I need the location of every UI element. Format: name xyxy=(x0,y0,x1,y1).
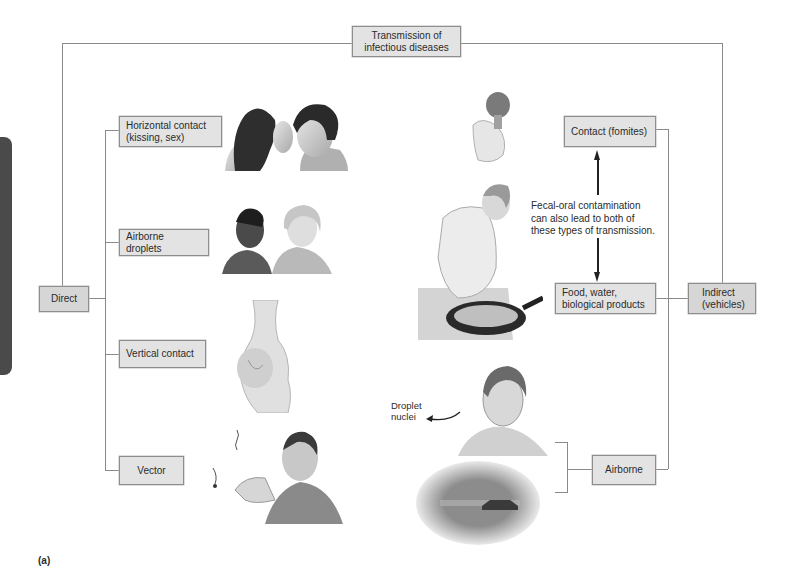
left-trunk xyxy=(105,130,106,471)
fecal-oral-line-1: Fecal-oral contamination xyxy=(531,200,655,213)
connector-horizontal xyxy=(105,130,119,131)
airborne-box: Airborne xyxy=(592,455,656,485)
two-people-talking-illustration xyxy=(222,202,340,274)
indirect-line-1: Indirect xyxy=(702,287,735,299)
connector-left-drop xyxy=(62,43,63,286)
direct-box: Direct xyxy=(39,286,89,312)
horizontal-contact-line-1: Horizontal contact xyxy=(126,120,206,132)
bracket-connector xyxy=(567,469,592,470)
car-dust-cloud-illustration xyxy=(410,460,540,546)
indirect-line-2: (vehicles) xyxy=(702,299,745,311)
droplet-arrow-icon xyxy=(424,408,464,428)
connector-top-right xyxy=(460,43,723,44)
airborne-droplets-box: Airborne droplets xyxy=(119,229,209,256)
hand-holding-object-illustration xyxy=(468,85,523,165)
food-water-box: Food, water, biological products xyxy=(555,283,656,314)
man-swatting-insects-illustration xyxy=(205,420,345,524)
connector-fomites xyxy=(655,129,668,130)
food-water-line-2: biological products xyxy=(562,299,645,311)
horizontal-contact-line-2: (kissing, sex) xyxy=(126,132,184,144)
side-tab xyxy=(0,137,12,375)
contact-fomites-label: Contact (fomites) xyxy=(571,126,647,138)
connector-airborne-right xyxy=(655,469,668,470)
connector-right-drop xyxy=(722,43,723,283)
connector-airborne-droplets xyxy=(105,242,119,243)
title-line-2: infectious diseases xyxy=(364,42,449,54)
right-trunk xyxy=(668,129,669,469)
vertical-contact-label: Vertical contact xyxy=(126,348,194,360)
arrow-shaft-lower xyxy=(597,238,599,274)
fecal-oral-line-3: these types of transmission. xyxy=(531,225,655,238)
horizontal-contact-box: Horizontal contact (kissing, sex) xyxy=(119,116,222,147)
title-line-1: Transmission of xyxy=(371,30,441,42)
airborne-label: Airborne xyxy=(605,464,643,476)
woman-cooking-illustration xyxy=(418,178,543,340)
arrow-shaft-upper xyxy=(597,158,599,195)
connector-vector xyxy=(105,470,119,471)
airborne-droplets-label: Airborne droplets xyxy=(126,231,202,255)
connector-top xyxy=(62,43,352,44)
connector-direct-trunk xyxy=(88,298,105,299)
droplet-line-2: nuclei xyxy=(391,411,422,422)
pregnant-woman-illustration xyxy=(233,300,298,413)
bracket-bottom xyxy=(555,492,567,493)
connector-vertical xyxy=(105,354,119,355)
title-box: Transmission of infectious diseases xyxy=(352,26,461,57)
figure-caption: (a) xyxy=(38,555,50,566)
bracket-top xyxy=(555,442,567,443)
vector-label: Vector xyxy=(137,465,165,477)
fecal-oral-note: Fecal-oral contamination can also lead t… xyxy=(531,200,655,238)
indirect-box: Indirect (vehicles) xyxy=(688,283,756,314)
contact-fomites-box: Contact (fomites) xyxy=(564,116,656,147)
droplet-line-1: Droplet xyxy=(391,400,422,411)
food-water-line-1: Food, water, xyxy=(562,287,617,299)
arrow-down-icon xyxy=(594,272,600,282)
vertical-contact-box: Vertical contact xyxy=(119,340,206,368)
couple-kissing-illustration xyxy=(215,95,350,171)
droplet-nuclei-label: Droplet nuclei xyxy=(391,400,422,422)
direct-label: Direct xyxy=(51,293,77,305)
bracket-vertical xyxy=(567,442,568,493)
connector-food xyxy=(655,298,688,299)
vector-box: Vector xyxy=(119,456,184,485)
fecal-oral-line-2: can also lead to both of xyxy=(531,213,655,226)
